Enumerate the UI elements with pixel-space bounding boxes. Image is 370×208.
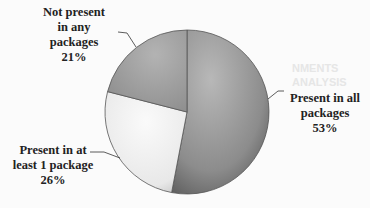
leader-line-21	[118, 32, 136, 47]
label-percent: 21%	[30, 50, 118, 65]
label-percent: 53%	[280, 121, 370, 136]
label-line: least 1 package	[8, 158, 98, 173]
data-label-present-at-least-one: Present in at least 1 package 26%	[8, 143, 98, 188]
label-line: packages	[30, 35, 118, 50]
label-line: in any	[30, 20, 118, 35]
pie-slices	[105, 30, 269, 194]
data-label-not-present: Not present in any packages 21%	[30, 5, 118, 65]
label-line: Present in at	[8, 143, 98, 158]
label-line: Not present	[30, 5, 118, 20]
data-label-present-all: Present in all packages 53%	[280, 91, 370, 136]
label-percent: 26%	[8, 173, 98, 188]
label-line: packages	[280, 106, 370, 121]
label-line: Present in all	[280, 91, 370, 106]
